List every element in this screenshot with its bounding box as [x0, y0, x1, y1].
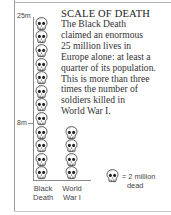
description-line: Europe alone: at least a — [61, 52, 171, 63]
legend-line: dead — [122, 181, 155, 190]
skull-icon — [35, 44, 48, 58]
skull-icon — [35, 30, 48, 44]
skull-icon — [35, 112, 48, 126]
frame-left-border — [14, 0, 15, 212]
label-line: War I — [62, 193, 82, 202]
label-line: Death — [33, 193, 53, 202]
skull-icon — [35, 98, 48, 112]
column-world-war-i — [65, 126, 78, 180]
y-axis — [33, 17, 34, 180]
description-line: World War I. — [61, 106, 171, 117]
description-line: quarter of its population. — [61, 63, 171, 74]
frame-bottom-border — [14, 211, 171, 212]
category-label-world-war-i: World War I — [62, 184, 82, 202]
legend-skull-icon — [106, 169, 119, 183]
skull-icon — [65, 153, 78, 167]
skull-icon — [35, 153, 48, 167]
legend-line: = 2 million — [122, 172, 155, 181]
skull-icon — [35, 126, 48, 140]
skull-icon — [106, 169, 119, 183]
skull-icon — [35, 17, 48, 31]
legend-text: = 2 million dead — [122, 172, 155, 190]
skull-icon — [35, 58, 48, 72]
skull-icon — [35, 71, 48, 85]
label-line: World — [62, 184, 82, 193]
skull-icon — [65, 166, 78, 180]
description-text: The Black Death claimed an enormous 25 m… — [61, 19, 171, 117]
label-line: Black — [33, 184, 53, 193]
category-label-black-death: Black Death — [33, 184, 53, 202]
skull-icon — [35, 166, 48, 180]
skull-icon — [35, 85, 48, 99]
skull-icon — [65, 126, 78, 140]
y-label-8m: 8m — [17, 119, 27, 126]
y-label-25m: 25m — [17, 12, 31, 19]
tick-8m — [28, 123, 33, 124]
skull-icon — [65, 139, 78, 153]
frame-top-border — [14, 2, 171, 3]
skull-icon — [35, 139, 48, 153]
column-black-death — [35, 17, 48, 180]
